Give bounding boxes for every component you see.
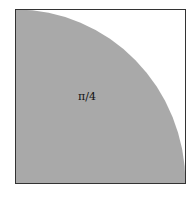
quarter-circle-diagram <box>0 0 196 199</box>
area-label: π/4 <box>78 90 96 103</box>
